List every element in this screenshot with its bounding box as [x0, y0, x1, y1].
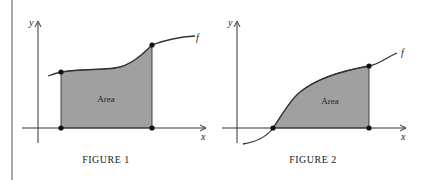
x-axis-label: x — [200, 131, 206, 142]
function-label: f — [401, 47, 405, 58]
point-right-top — [149, 42, 154, 47]
figure-1: y x f Area FIGURE 1 — [22, 17, 206, 165]
point-right-bottom — [366, 125, 371, 130]
area-label: Area — [321, 96, 339, 106]
figure-caption: FIGURE 1 — [82, 154, 130, 165]
function-label: f — [196, 32, 200, 43]
area-label: Area — [97, 94, 115, 104]
point-right-bottom — [149, 125, 154, 130]
y-axis-label: y — [28, 17, 34, 28]
y-axis-label: y — [227, 17, 233, 28]
figures-canvas: y x f Area FIGURE 1 y x f Area FIGURE 2 — [0, 0, 426, 180]
point-right-top — [366, 63, 371, 68]
point-left-top — [58, 69, 63, 74]
x-axis-label: x — [400, 131, 406, 142]
figure-caption: FIGURE 2 — [289, 154, 337, 165]
point-left-bottom — [58, 125, 63, 130]
point-left-axis — [270, 125, 275, 130]
figure-2: y x f Area FIGURE 2 — [222, 17, 406, 165]
